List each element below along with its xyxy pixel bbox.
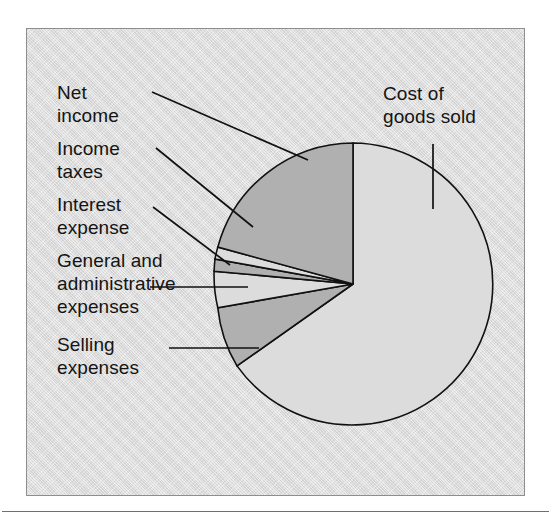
- leader-line-net-income: [152, 92, 308, 160]
- label-income-taxes: Income taxes: [57, 137, 120, 183]
- label-net-income: Net income: [57, 81, 119, 127]
- label-cost-of-goods-sold: Cost of goods sold: [383, 82, 476, 128]
- bottom-divider-rule: [2, 511, 549, 512]
- label-selling-expenses: Selling expenses: [57, 333, 139, 379]
- figure-panel: Net income Income taxes Interest expense…: [26, 28, 525, 496]
- leader-line-income-taxes: [156, 148, 253, 227]
- label-general-and-administrative-expenses: General and administrative expenses: [57, 249, 176, 318]
- label-interest-expense: Interest expense: [57, 193, 130, 239]
